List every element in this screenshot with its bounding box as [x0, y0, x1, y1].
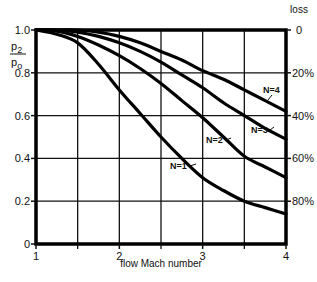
svg-text:po: po — [11, 56, 22, 71]
series-label-n1: N=1 — [170, 161, 187, 171]
y-tick-label: 1.0 — [15, 24, 30, 36]
x-axis-title: flow Mach number — [120, 258, 202, 269]
y2-tick-label: 20% — [292, 67, 314, 79]
x-tick-label: 4 — [283, 250, 289, 262]
y2-tick-label: 80% — [292, 195, 314, 207]
y2-tick-label: 0 — [296, 24, 302, 36]
pressure-ratio-chart: 123400.20.40.60.81.0020%40%60%80% loss f… — [0, 0, 317, 282]
y-tick-label: 0.2 — [15, 195, 30, 207]
y-tick-label: 0 — [24, 238, 30, 250]
series-label-n2: N=2 — [206, 135, 223, 145]
y2-tick-label: 60% — [292, 152, 314, 164]
y2-tick-label: 40% — [292, 110, 314, 122]
series-label-n3: N=3 — [251, 125, 268, 135]
y-tick-label: 0.4 — [15, 152, 30, 164]
x-tick-label: 1 — [33, 250, 39, 262]
series-label-n4: N=4 — [263, 85, 280, 95]
svg-text:p2: p2 — [11, 40, 22, 55]
y-tick-label: 0.6 — [15, 110, 30, 122]
y2-axis-title: loss — [290, 4, 308, 15]
